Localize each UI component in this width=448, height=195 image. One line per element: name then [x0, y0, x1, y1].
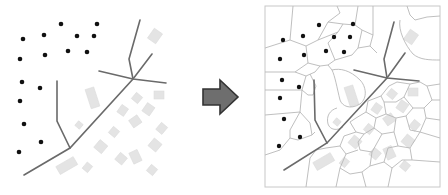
right-arrow-icon [203, 80, 238, 114]
points-left [17, 22, 100, 155]
right-panel [265, 6, 440, 187]
left-panel [17, 20, 168, 176]
diagram-canvas [0, 0, 448, 195]
